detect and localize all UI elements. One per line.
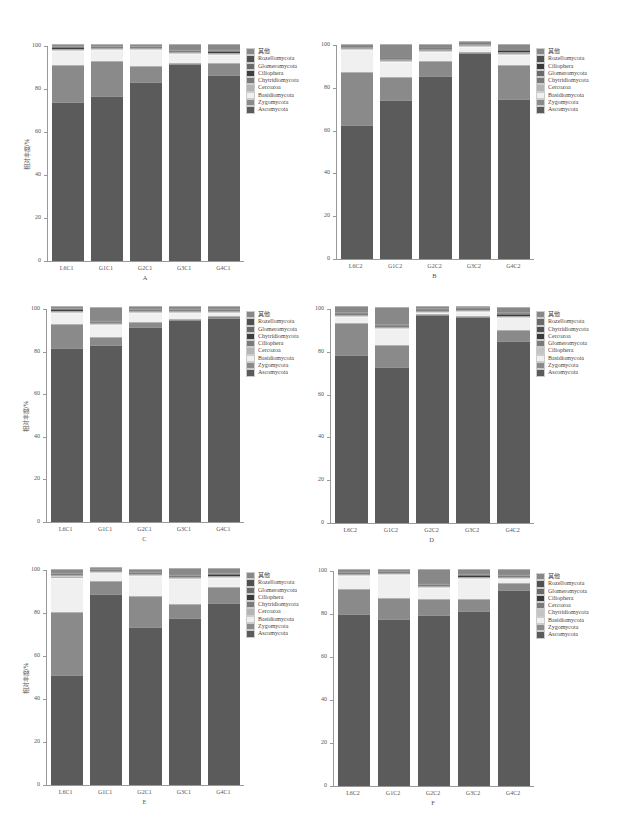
y-tick-label: 60 [310,391,324,397]
x-tick-label: G3C1 [167,526,201,532]
legend: 其他RozellomycotaCiliopheraGlomeromycotaCh… [536,48,589,114]
legend-item: Basidiomycota [246,92,299,99]
y-tick-mark [330,657,333,658]
legend-swatch [536,326,545,333]
legend-item: Rozellomycota [246,579,299,586]
legend-item: Ascomycota [536,369,589,376]
legend-label: 其他 [548,311,560,318]
legend-label: Cercozoa [548,602,571,609]
legend-label: Chytridiomycota [548,77,589,84]
legend-label: Chytridiomycota [258,601,299,608]
bar-segment-ascomycota [90,594,122,785]
legend-swatch [246,616,255,623]
panel-letter: E [135,798,155,805]
y-tick-label: 20 [26,738,40,744]
legend-item: 其他 [246,572,299,579]
x-tick-label: G2C1 [128,789,162,795]
legend-item: Ciliophera [246,70,299,77]
legend-item: Rozellomycota [536,318,589,325]
legend-swatch [536,77,545,84]
bar-segment-zygomycota [90,581,122,594]
bar-segment-zygomycota [419,61,451,76]
stacked-bar-l6c1 [51,569,83,785]
legend-label: Rozellomycota [548,580,584,587]
bar-segment-zygomycota [338,589,371,614]
y-tick-mark [44,261,47,262]
legend-swatch [246,55,255,62]
legend-label: 其他 [258,572,270,579]
y-tick-mark [330,571,333,572]
legend-swatch [246,70,255,77]
legend-item: Ciliophera [536,595,589,602]
panel-letter: F [423,799,443,806]
bar-segment-ascomycota [341,125,373,259]
y-tick-label: 0 [313,782,327,788]
bar-segment-zygomycota [498,65,530,98]
legend-item: Glomeromycota [246,326,299,333]
legend-swatch [536,92,545,99]
bar-segment-ascomycota [335,355,368,523]
legend-swatch [536,318,545,325]
bar-segment-ascomycota [130,82,162,261]
legend-swatch [536,580,545,587]
y-tick-mark [333,173,336,174]
legend-item: Basidiomycota [246,355,299,362]
legend-item: 其他 [536,573,589,580]
stacked-bar-g1c2 [378,569,411,786]
stacked-bar-g1c1 [90,567,122,785]
bar-segment-basidiomycota [497,318,530,331]
legend-label: Basidiomycota [548,92,584,99]
legend-swatch [536,624,545,631]
stacked-bar-g3c2 [456,306,489,523]
legend-swatch [536,362,545,369]
x-tick-label: L6C1 [49,789,83,795]
bar-segment-basidiomycota [90,325,122,337]
legend-item: Cercozoa [536,84,589,91]
x-tick-label: G4C1 [206,265,240,271]
legend-swatch [536,573,545,580]
legend-item: Glomeromycota [536,588,589,595]
bar-segment-ascomycota [129,627,161,785]
bar-segment-basidiomycota [419,52,451,61]
legend-item: Ascomycota [246,630,299,637]
legend-label: Rozellomycota [258,579,294,586]
bar-segment-zygomycota [498,583,531,591]
bar-segment-ascomycota [416,315,449,523]
legend-swatch [536,617,545,624]
y-tick-mark [43,522,46,523]
y-tick-mark [327,437,330,438]
legend-item: Rozellomycota [536,55,589,62]
plot-area [46,309,244,523]
legend-item: Zygomycota [536,99,589,106]
x-tick-label: G3C2 [457,263,491,269]
bar-segment-ascomycota [380,100,412,259]
y-tick-mark [43,352,46,353]
legend-item: Ciliophera [536,63,589,70]
legend-label: Basidiomycota [258,616,294,623]
y-tick-label: 20 [313,739,327,745]
legend-label: Chytridiomycota [548,609,589,616]
stacked-bar-l6c1 [51,306,83,522]
bar-segment-basidiomycota [208,578,240,588]
legend-item: Ascomycota [246,369,299,376]
legend-item: Chytridiomycota [536,77,589,84]
legend-label: Zygomycota [258,99,288,106]
legend-swatch [246,623,255,630]
legend-item: 其他 [246,311,299,318]
legend-swatch [536,355,545,362]
y-tick-mark [330,614,333,615]
x-tick-label: G3C2 [456,790,490,796]
legend-swatch [536,602,545,609]
bar-segment-ascomycota [419,76,451,259]
bar-segment-ascomycota [91,96,123,261]
legend-swatch [246,84,255,91]
legend-swatch [246,99,255,106]
x-tick-label: L6C2 [333,527,367,533]
y-tick-mark [327,309,330,310]
y-tick-mark [44,175,47,176]
legend-item: Ciliophera [536,347,589,354]
legend-label: Cercozoa [258,608,281,615]
y-tick-label: 0 [27,257,41,263]
stacked-bar-g2c1 [129,306,161,522]
legend-swatch [536,106,545,113]
